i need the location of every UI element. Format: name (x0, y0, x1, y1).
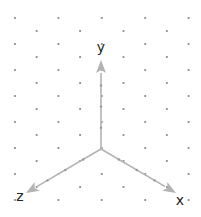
grid-dot (14, 121, 16, 123)
grid-dot (122, 134, 124, 136)
grid-dot (36, 82, 38, 84)
grid-dot (101, 199, 103, 201)
grid-dot (36, 134, 38, 136)
z-axis-label: z (16, 188, 23, 204)
grid-dot (79, 186, 81, 188)
grid-dot (188, 95, 190, 97)
grid-dot (79, 82, 81, 84)
grid-dot (188, 17, 190, 19)
axis-tick (118, 158, 120, 160)
grid-dot (188, 43, 190, 45)
grid-dot (79, 30, 81, 32)
grid-dot (122, 108, 124, 110)
grid-dot (188, 69, 190, 71)
grid-dot (14, 147, 16, 149)
grid-dot (101, 17, 103, 19)
grid-dot (14, 69, 16, 71)
grid-dot (166, 30, 168, 32)
grid-dot (79, 134, 81, 136)
axis-tick (136, 169, 138, 171)
grid-dot (57, 199, 59, 201)
grid-dot (79, 56, 81, 58)
grid-dot (101, 173, 103, 175)
grid-dot (36, 56, 38, 58)
x-axis-label: x (176, 192, 184, 208)
grid-dot (188, 121, 190, 123)
grid-dot (188, 147, 190, 149)
axes: x y z (16, 39, 184, 208)
grid-dot (122, 186, 124, 188)
grid-dot (166, 82, 168, 84)
grid-dot (166, 108, 168, 110)
grid-dot (14, 95, 16, 97)
isometric-axes-diagram: x y z (0, 0, 201, 217)
grid-dot (166, 56, 168, 58)
grid-dot (36, 30, 38, 32)
grid-dot (122, 30, 124, 32)
grid-dot (144, 95, 146, 97)
grid-dot (144, 17, 146, 19)
grid-dot (166, 160, 168, 162)
grid-dot (144, 69, 146, 71)
z-axis: z (16, 149, 101, 204)
axis-tick (82, 158, 84, 160)
grid-dot (57, 17, 59, 19)
y-axis: y (96, 39, 106, 149)
x-axis: x (101, 149, 184, 208)
grid-dot (57, 95, 59, 97)
y-axis-label: y (97, 39, 105, 55)
grid-dot (188, 199, 190, 201)
grid-dot (36, 108, 38, 110)
grid-dot (79, 108, 81, 110)
grid-dot (144, 199, 146, 201)
axis-tick (100, 105, 102, 107)
y-arrowhead-icon (96, 60, 106, 73)
grid-dot (188, 173, 190, 175)
grid-dot (57, 69, 59, 71)
grid-dot (36, 160, 38, 162)
grid-dot (166, 134, 168, 136)
x-arrowhead-icon (162, 182, 176, 193)
axis-tick (100, 84, 102, 86)
grid-dot (144, 147, 146, 149)
axis-tick (100, 127, 102, 129)
axis-tick (46, 179, 48, 181)
grid-dot (14, 43, 16, 45)
axis-tick (153, 179, 155, 181)
grid-dot (57, 121, 59, 123)
grid-dot (14, 173, 16, 175)
grid-dot (122, 56, 124, 58)
grid-dot (14, 17, 16, 19)
grid-dot (144, 121, 146, 123)
grid-dot (57, 147, 59, 149)
grid-dot (144, 43, 146, 45)
grid-dot (57, 43, 59, 45)
grid-dot (122, 82, 124, 84)
axis-tick (64, 169, 66, 171)
